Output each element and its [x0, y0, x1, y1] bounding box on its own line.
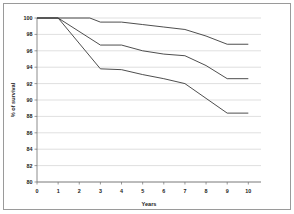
x-tick-label-9: 9: [226, 188, 229, 194]
y-tick-label-94: 94: [27, 64, 33, 70]
survival-line-chart: 80828486889092949698100 012345678910 Yea…: [0, 0, 294, 214]
y-tick-label-100: 100: [24, 15, 33, 21]
x-tick-label-6: 6: [162, 188, 165, 194]
y-tick-label-82: 82: [27, 163, 33, 169]
y-tick-label-86: 86: [27, 130, 33, 136]
figure-container: 80828486889092949698100 012345678910 Yea…: [0, 0, 294, 214]
x-tick-label-4: 4: [120, 188, 123, 194]
y-tick-labels-group: 80828486889092949698100: [24, 15, 33, 185]
x-tick-label-8: 8: [205, 188, 208, 194]
x-axis-title: Years: [142, 201, 157, 207]
x-tick-labels-group: 012345678910: [36, 188, 252, 194]
plot-wrapper: 80828486889092949698100 012345678910 Yea…: [0, 0, 294, 214]
y-tick-label-88: 88: [27, 113, 33, 119]
y-tick-label-84: 84: [27, 146, 33, 152]
x-tick-label-1: 1: [57, 188, 60, 194]
x-tick-label-0: 0: [36, 188, 39, 194]
x-tick-label-10: 10: [245, 188, 251, 194]
x-tick-label-7: 7: [183, 188, 186, 194]
y-tick-label-96: 96: [27, 48, 33, 54]
y-tick-label-90: 90: [27, 97, 33, 103]
x-tick-label-2: 2: [78, 188, 81, 194]
y-axis-title: % of survival: [10, 82, 16, 117]
y-tick-label-98: 98: [27, 31, 33, 37]
y-tick-label-92: 92: [27, 81, 33, 87]
x-tick-label-3: 3: [99, 188, 102, 194]
y-tick-label-80: 80: [27, 179, 33, 185]
x-tick-label-5: 5: [141, 188, 144, 194]
